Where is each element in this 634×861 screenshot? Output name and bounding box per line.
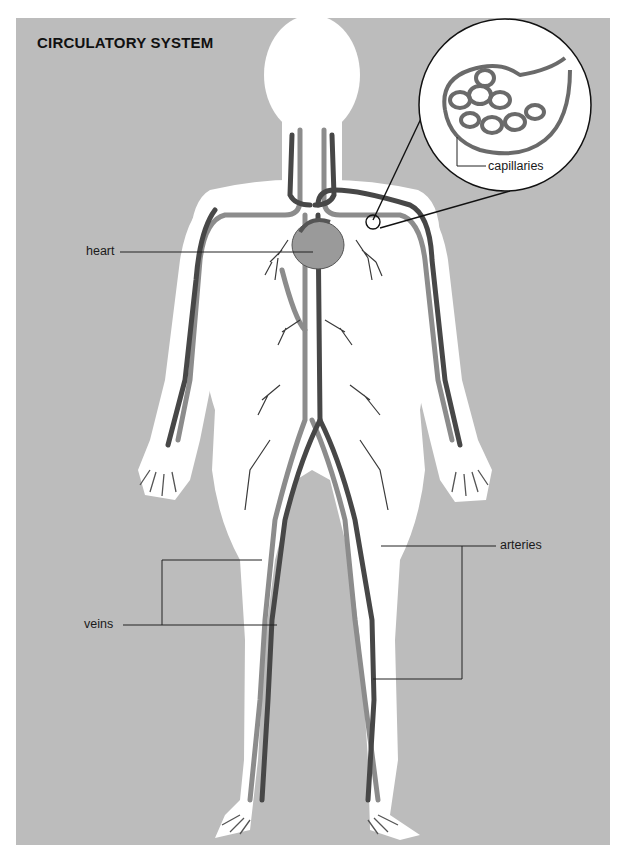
label-heart: heart bbox=[86, 244, 115, 258]
label-arteries: arteries bbox=[500, 538, 542, 552]
circulatory-diagram bbox=[0, 0, 634, 861]
label-capillaries: capillaries bbox=[488, 159, 544, 173]
hands-feet bbox=[140, 470, 488, 834]
diagram-title: CIRCULATORY SYSTEM bbox=[37, 34, 213, 51]
label-veins: veins bbox=[84, 617, 113, 631]
heart-organ bbox=[292, 220, 344, 269]
